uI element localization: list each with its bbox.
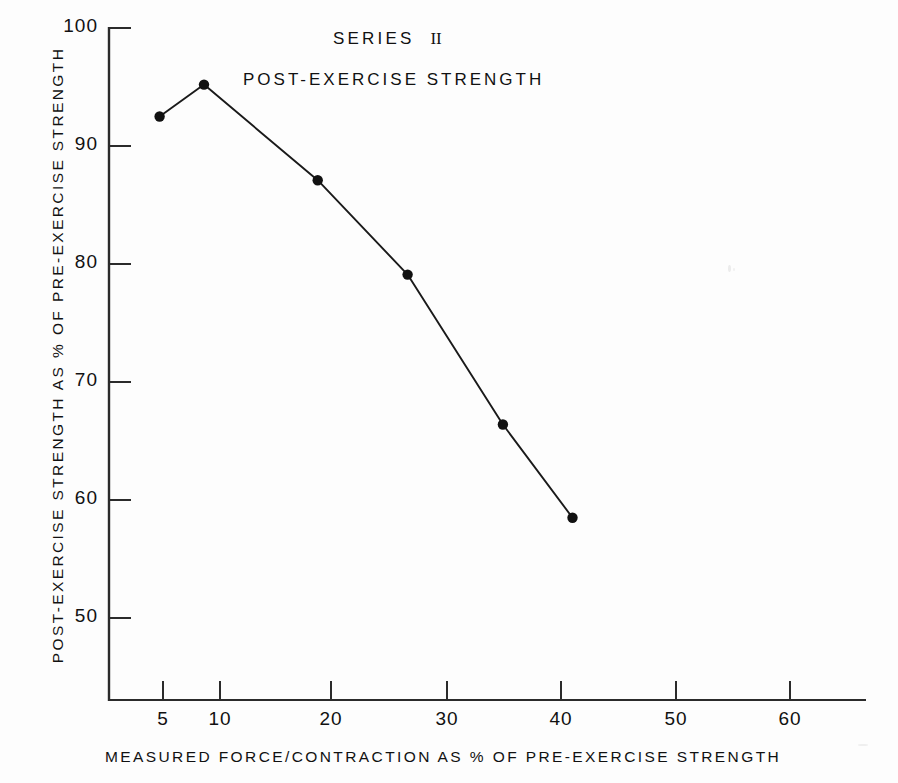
data-point bbox=[199, 79, 209, 89]
x-axis-ticks bbox=[163, 681, 790, 700]
y-tick-label: 90 bbox=[52, 133, 98, 155]
data-point bbox=[567, 513, 577, 523]
chart-figure: SERIES II POST-EXERCISE STRENGTH MEASURE… bbox=[0, 0, 898, 783]
data-line bbox=[160, 85, 573, 518]
data-point bbox=[402, 269, 412, 279]
x-tick-label: 50 bbox=[653, 708, 699, 730]
axis-lines bbox=[108, 27, 866, 701]
y-tick-label: 100 bbox=[52, 15, 98, 37]
x-tick-label: 20 bbox=[308, 708, 354, 730]
data-markers bbox=[154, 79, 577, 523]
y-tick-label: 50 bbox=[52, 605, 98, 627]
data-point bbox=[313, 175, 323, 185]
y-tick-label: 60 bbox=[52, 487, 98, 509]
x-tick-label: 30 bbox=[424, 708, 470, 730]
y-tick-label: 70 bbox=[52, 369, 98, 391]
y-axis-ticks bbox=[109, 28, 131, 618]
plot-area bbox=[0, 0, 898, 783]
x-tick-label: 5 bbox=[140, 708, 186, 730]
y-tick-label: 80 bbox=[52, 251, 98, 273]
data-point bbox=[154, 111, 164, 121]
data-point bbox=[498, 419, 508, 429]
x-tick-label: 60 bbox=[767, 708, 813, 730]
x-tick-label: 10 bbox=[197, 708, 243, 730]
x-tick-label: 40 bbox=[538, 708, 584, 730]
